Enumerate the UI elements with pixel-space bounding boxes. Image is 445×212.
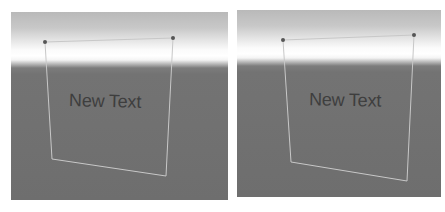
- scene-view-right[interactable]: New Text: [237, 10, 441, 197]
- anchor-handle-top-left[interactable]: [43, 40, 47, 44]
- text-object-label[interactable]: New Text: [309, 89, 381, 111]
- text-object-label[interactable]: New Text: [69, 90, 142, 113]
- anchor-handle-top-left[interactable]: [281, 38, 285, 42]
- anchor-handle-top-right[interactable]: [171, 36, 175, 40]
- anchor-handle-top-right[interactable]: [412, 33, 416, 37]
- scene-view-left[interactable]: New Text: [11, 12, 228, 200]
